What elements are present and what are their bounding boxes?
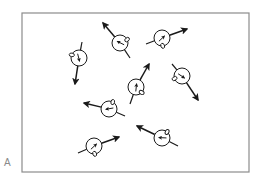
magnetic-moment-arrow-icon <box>103 23 115 37</box>
magnetic-moment-arrow-icon <box>186 83 198 100</box>
magnetic-moment-arrow-icon <box>137 126 155 135</box>
spin-axis-line <box>80 42 82 50</box>
spin-diagram: A <box>0 0 262 183</box>
spin-axis-line <box>116 112 125 116</box>
spin-axis-line <box>78 149 87 153</box>
spin-1 <box>69 42 87 84</box>
spin-7 <box>78 137 119 157</box>
spin-axis-line <box>146 41 155 44</box>
rotation-loop-icon <box>69 53 75 57</box>
magnetic-moment-arrow-icon <box>140 64 149 80</box>
spins-group <box>69 23 198 157</box>
magnetic-moment-arrow-icon <box>84 103 101 107</box>
spin-3 <box>146 29 187 49</box>
spin-5 <box>171 64 198 100</box>
diagram-canvas <box>0 0 262 183</box>
spin-axis-line <box>172 64 177 70</box>
spin-axis-line <box>169 142 178 146</box>
spin-axis-line <box>124 50 130 58</box>
spin-6 <box>84 99 125 117</box>
magnetic-moment-arrow-icon <box>170 29 187 35</box>
spin-2 <box>103 23 130 58</box>
spin-axis-line <box>130 95 133 104</box>
magnetic-moment-arrow-icon <box>75 66 78 84</box>
panel-label: A <box>4 157 11 168</box>
spin-8 <box>137 126 178 146</box>
magnetic-moment-arrow-icon <box>102 137 119 143</box>
spin-4 <box>128 64 149 104</box>
